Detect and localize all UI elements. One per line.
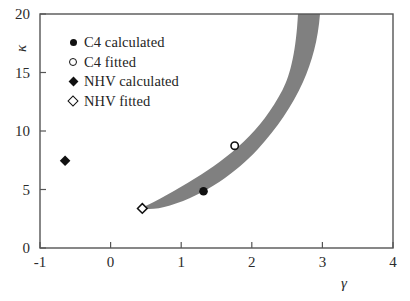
figure-scatter-kappa-gamma: 20 15 10 5 0 -1 0 1 2 3 4 κ γ C4 calcula… xyxy=(0,0,410,301)
legend-item-c4-fitted: C4 fitted xyxy=(62,53,179,73)
legend: C4 calculated C4 fitted NHV calculated N… xyxy=(62,33,179,111)
x-axis-label: γ xyxy=(341,275,347,292)
legend-label: NHV fitted xyxy=(84,93,150,110)
legend-item-c4-calculated: C4 calculated xyxy=(62,33,179,53)
y-axis-label: κ xyxy=(13,41,30,57)
marker-nhv-fitted xyxy=(138,204,148,214)
x-tick-label-neg1: -1 xyxy=(34,254,47,271)
marker-c4-calculated xyxy=(199,187,208,196)
y-tick-label-0: 0 xyxy=(4,240,30,257)
x-tick-label-3: 3 xyxy=(319,254,327,271)
x-tick-label-0: 0 xyxy=(107,254,115,271)
legend-label: C4 fitted xyxy=(84,54,136,71)
open-circle-icon xyxy=(62,58,84,66)
y-tick-label-20: 20 xyxy=(4,6,30,23)
y-tick-label-10: 10 xyxy=(4,123,30,140)
y-tick-label-15: 15 xyxy=(4,64,30,81)
legend-label: C4 calculated xyxy=(84,34,165,51)
legend-item-nhv-calculated: NHV calculated xyxy=(62,72,179,92)
x-tick-label-2: 2 xyxy=(248,254,256,271)
x-axis-ticks xyxy=(40,242,393,248)
filled-diamond-icon xyxy=(62,78,84,85)
x-tick-label-4: 4 xyxy=(389,254,397,271)
y-tick-label-5: 5 xyxy=(4,181,30,198)
marker-c4-fitted xyxy=(231,142,238,149)
filled-circle-icon xyxy=(62,39,84,46)
legend-item-nhv-fitted: NHV fitted xyxy=(62,92,179,112)
y-axis-ticks xyxy=(40,14,46,248)
marker-nhv-calculated xyxy=(60,155,71,166)
x-tick-label-1: 1 xyxy=(177,254,185,271)
legend-label: NHV calculated xyxy=(84,73,179,90)
open-diamond-icon xyxy=(62,97,84,105)
